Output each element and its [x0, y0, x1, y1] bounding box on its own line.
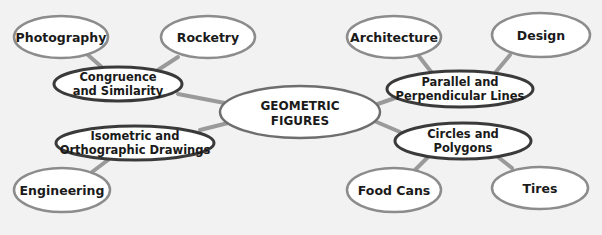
connector-architecture-parallel	[418, 55, 432, 73]
node-parallel-perpendicular: Parallel and Perpendicular Lines	[387, 71, 533, 107]
node-label: Photography	[16, 30, 107, 45]
node-label: Engineering	[20, 183, 105, 198]
connector-design-parallel	[495, 55, 510, 73]
node-label-line2: Perpendicular Lines	[396, 89, 525, 103]
node-label: Tires	[523, 181, 558, 196]
node-label-line1: Parallel and	[421, 75, 498, 89]
node-rocketry: Rocketry	[161, 16, 255, 58]
connector-engineering-isometric	[92, 160, 108, 172]
node-tires: Tires	[492, 167, 588, 209]
node-food-cans: Food Cans	[347, 168, 441, 212]
node-label-line1: Circles and	[427, 127, 499, 141]
node-circles-polygons: Circles and Polygons	[395, 123, 531, 159]
connector-tires-circles	[498, 157, 512, 168]
node-label-line1: Congruence	[79, 70, 156, 84]
connector-foodcans-circles	[415, 157, 428, 170]
node-label-line1: Isometric and	[91, 129, 180, 143]
node-geometric-figures: GEOMETRIC FIGURES	[220, 86, 380, 138]
node-label-line2: Polygons	[434, 141, 493, 155]
node-label: Design	[517, 28, 565, 43]
node-design: Design	[492, 13, 590, 57]
node-label: Rocketry	[177, 30, 239, 45]
node-isometric-orthographic: Isometric and Orthographic Drawings	[56, 126, 214, 160]
node-label-line2: Orthographic Drawings	[60, 143, 211, 157]
concept-map: Photography Rocketry Engineering Archite…	[0, 0, 602, 235]
node-label: Food Cans	[358, 183, 430, 198]
node-label-line2: and Similarity	[73, 84, 164, 98]
node-architecture: Architecture	[347, 16, 441, 58]
node-engineering: Engineering	[14, 168, 110, 212]
node-congruence-similarity: Congruence and Similarity	[54, 67, 182, 101]
node-photography: Photography	[14, 16, 108, 58]
connector-rocketry-congruence	[158, 57, 178, 70]
connector-congruence-center	[178, 94, 230, 104]
center-label-line1: GEOMETRIC	[260, 99, 339, 113]
center-label-line2: FIGURES	[271, 114, 329, 128]
node-label: Architecture	[350, 30, 438, 45]
